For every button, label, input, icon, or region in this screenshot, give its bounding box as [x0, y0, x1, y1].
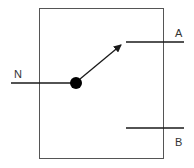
label-n: N	[14, 68, 22, 80]
switch-arm-arrow	[80, 45, 121, 79]
label-a: A	[175, 27, 183, 39]
switch-diagram: N A B	[0, 0, 194, 168]
label-b: B	[175, 136, 182, 148]
